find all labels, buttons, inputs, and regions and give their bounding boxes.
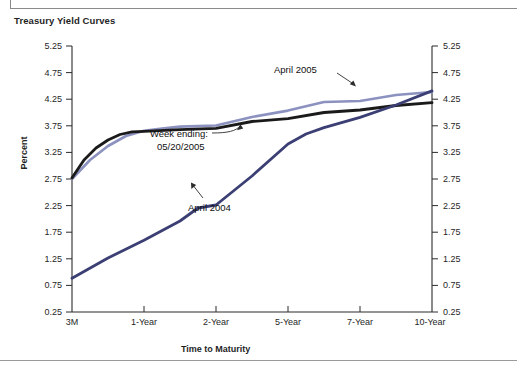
y-tick-label-right: 3.25	[443, 147, 461, 157]
y-tick-label-right: 2.25	[443, 201, 461, 211]
x-tick-label: 3M	[66, 317, 79, 327]
y-axis-left-tick-labels: 5.25 4.75 4.25 3.75 3.25 2.75 2.25 1.75 …	[44, 41, 62, 317]
series-line-april-2004	[72, 91, 432, 278]
x-tick-label: 10-Year	[414, 317, 445, 327]
y-tick-label-right: 5.25	[443, 41, 461, 51]
chart-plot-area: 5.25 4.75 4.25 3.75 3.25 2.75 2.25 1.75 …	[0, 0, 517, 376]
x-tick-label: 7-Year	[347, 317, 373, 327]
y-tick-label: 4.25	[44, 94, 62, 104]
y-tick-label-right: 1.25	[443, 254, 461, 264]
annotation-leader-april-2005	[337, 73, 356, 87]
series-label-week-ending-date: 05/20/2005	[157, 141, 205, 152]
y-tick-label: 3.25	[44, 147, 62, 157]
treasury-yield-curves-figure: Treasury Yield Curves Percent Time to Ma…	[0, 0, 517, 376]
y-axis-right-ticks	[432, 46, 438, 312]
y-tick-label: 0.75	[44, 280, 62, 290]
series-label-april-2004: April 2004	[188, 202, 231, 213]
y-tick-label-right: 0.75	[443, 280, 461, 290]
x-axis-ticks	[144, 306, 360, 312]
y-tick-label: 3.75	[44, 121, 62, 131]
y-tick-label: 0.25	[44, 307, 62, 317]
y-tick-label: 2.25	[44, 201, 62, 211]
y-tick-label-right: 4.75	[443, 68, 461, 78]
y-tick-label-right: 3.75	[443, 121, 461, 131]
figure-footnote	[14, 366, 509, 376]
x-tick-label: 2-Year	[203, 317, 229, 327]
y-tick-label: 5.25	[44, 41, 62, 51]
series-line-april-2005	[72, 92, 432, 179]
series-label-week-ending: Week ending:	[150, 128, 208, 139]
y-tick-label: 1.75	[44, 227, 62, 237]
series-label-april-2005: April 2005	[274, 64, 317, 75]
y-tick-label-right: 4.25	[443, 94, 461, 104]
series-line-week-ending	[72, 103, 432, 178]
y-tick-label-right: 2.75	[443, 174, 461, 184]
y-tick-label: 1.25	[44, 254, 62, 264]
y-tick-label-right: 0.25	[443, 307, 461, 317]
x-axis-tick-labels: 3M 1-Year 2-Year 5-Year 7-Year 10-Year	[66, 317, 446, 327]
y-tick-label: 4.75	[44, 68, 62, 78]
figure-bottom-divider	[0, 360, 517, 361]
x-tick-label: 1-Year	[131, 317, 157, 327]
y-axis-right-tick-labels: 5.25 4.75 4.25 3.75 3.25 2.75 2.25 1.75 …	[443, 41, 461, 317]
x-tick-label: 5-Year	[275, 317, 301, 327]
y-tick-label: 2.75	[44, 174, 62, 184]
annotation-leader-april-2004	[191, 182, 203, 198]
y-tick-label-right: 1.75	[443, 227, 461, 237]
